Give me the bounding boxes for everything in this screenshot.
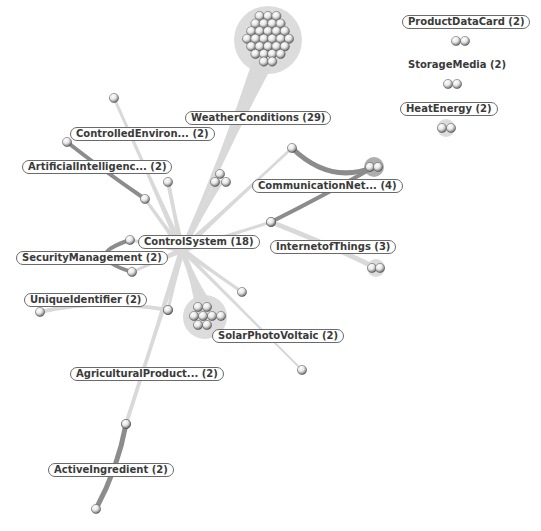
active-ingredient-item-node[interactable] (121, 419, 130, 428)
cluster-label-controlled-environ[interactable]: ControlledEnviron... (2) (70, 127, 215, 141)
heat-energy-item-node[interactable] (446, 123, 455, 132)
communication-net-item-node[interactable] (287, 143, 296, 152)
item-node[interactable] (215, 169, 224, 178)
solar-item-node[interactable] (193, 302, 202, 311)
solar-item-node[interactable] (198, 311, 207, 320)
weather-item-node[interactable] (276, 49, 285, 58)
weather-item-node[interactable] (268, 57, 277, 66)
cluster-label-heat-energy[interactable]: HeatEnergy (2) (400, 102, 498, 116)
communication-net-item-node[interactable] (373, 162, 382, 171)
controlled-environ-item-node[interactable] (109, 93, 118, 102)
product-data-card-item-node[interactable] (451, 36, 460, 45)
cluster-graph-canvas[interactable] (0, 0, 541, 531)
solar-item-node[interactable] (207, 311, 216, 320)
solar-item-node[interactable] (202, 302, 211, 311)
cluster-bundle (292, 148, 374, 173)
solar-item-node[interactable] (216, 311, 225, 320)
cluster-label-unique-identifier[interactable]: UniqueIdentifier (2) (24, 293, 147, 307)
cluster-label-communication-net[interactable]: CommunicationNet... (4) (252, 179, 403, 193)
cluster-label-product-data-card[interactable]: ProductDataCard (2) (402, 15, 530, 29)
cluster-label-security-management[interactable]: SecurityManagement (2) (16, 251, 168, 265)
cluster-label-artificial-intelligence[interactable]: ArtificialIntelligenc... (2) (22, 160, 172, 174)
internet-of-things-item-node[interactable] (375, 263, 384, 272)
cluster-label-weather-conditions[interactable]: WeatherConditions (29) (185, 111, 331, 125)
cluster-bundle (271, 167, 374, 222)
active-ingredient-item-node[interactable] (91, 504, 100, 513)
cluster-label-storage-media[interactable]: StorageMedia (2) (402, 58, 512, 72)
unique-identifier-item-node[interactable] (35, 307, 44, 316)
artificial-intelligence-item-node[interactable] (62, 137, 71, 146)
item-node[interactable] (210, 177, 219, 186)
heat-energy-item-node[interactable] (437, 123, 446, 132)
solar-item-node[interactable] (189, 311, 198, 320)
artificial-intelligence-item-node[interactable] (140, 194, 149, 203)
controlled-environ-item-node[interactable] (163, 177, 172, 186)
security-management-item-node[interactable] (125, 235, 134, 244)
security-management-item-node[interactable] (127, 267, 136, 276)
cluster-label-internet-of-things[interactable]: InternetofThings (3) (270, 240, 396, 254)
solar-item-node[interactable] (202, 320, 211, 329)
item-node[interactable] (297, 365, 306, 374)
edge-bundle (113, 97, 185, 251)
edge-bundle (180, 60, 271, 251)
cluster-label-agricultural-product[interactable]: AgriculturalProduct... (2) (70, 367, 224, 381)
item-node[interactable] (237, 287, 246, 296)
weather-item-node[interactable] (259, 57, 268, 66)
cluster-label-active-ingredient[interactable]: ActiveIngredient (2) (48, 463, 174, 477)
solar-item-node[interactable] (193, 320, 202, 329)
weather-item-node[interactable] (251, 49, 260, 58)
cluster-label-control-system[interactable]: ControlSystem (18) (138, 235, 260, 249)
cluster-label-solar-photovoltaic[interactable]: SolarPhotoVoltaic (2) (212, 329, 344, 343)
product-data-card-item-node[interactable] (460, 36, 469, 45)
internet-of-things-item-node[interactable] (266, 217, 275, 226)
storage-media-item-node[interactable] (452, 79, 461, 88)
agricultural-product-item-node[interactable] (163, 305, 172, 314)
storage-media-item-node[interactable] (443, 79, 452, 88)
item-node[interactable] (221, 177, 230, 186)
